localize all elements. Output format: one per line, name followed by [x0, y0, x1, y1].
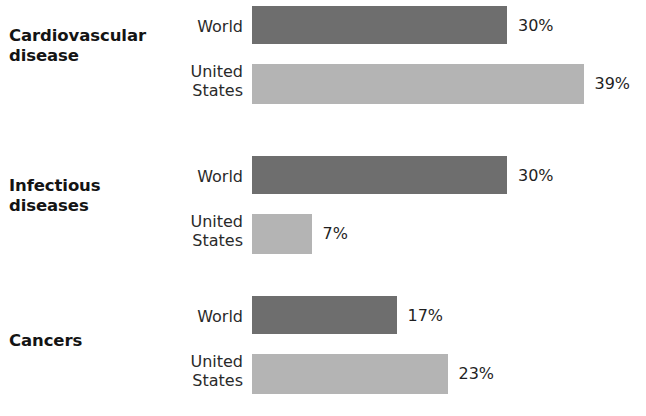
series-label-world: World	[93, 307, 243, 326]
bar-row: World 30%	[0, 154, 646, 206]
value-label-world-cancers: 17%	[408, 306, 444, 325]
chart-group-infectious-diseases: Infectious diseases World 30% United Sta…	[0, 150, 646, 290]
bar-row: United States 7%	[0, 208, 646, 260]
value-label-united-states-infectious-diseases: 7%	[323, 224, 348, 243]
value-label-world-cardiovascular-disease: 30%	[518, 16, 554, 35]
series-label-world: World	[93, 167, 243, 186]
bar-world-cancers	[252, 296, 397, 334]
chart-group-cancers: Cancers World 17% United States 23%	[0, 290, 646, 416]
bar-world-infectious-diseases	[252, 156, 507, 194]
chart-group-cardiovascular-disease: Cardiovascular disease World 30% United …	[0, 0, 646, 150]
bar-row: United States 39%	[0, 58, 646, 110]
value-label-world-infectious-diseases: 30%	[518, 166, 554, 185]
bar-row: United States 23%	[0, 348, 646, 400]
bar-united-states-infectious-diseases	[252, 214, 312, 254]
value-label-united-states-cancers: 23%	[459, 364, 495, 383]
grouped-bar-chart: Cardiovascular disease World 30% United …	[0, 0, 646, 416]
series-label-united-states: United States	[93, 212, 243, 250]
series-label-united-states: United States	[93, 352, 243, 390]
bar-row: World 30%	[0, 4, 646, 56]
value-label-united-states-cardiovascular-disease: 39%	[595, 74, 631, 93]
series-label-united-states: United States	[93, 62, 243, 100]
bar-row: World 17%	[0, 294, 646, 346]
series-label-world: World	[93, 17, 243, 36]
bar-united-states-cardiovascular-disease	[252, 64, 584, 104]
bar-united-states-cancers	[252, 354, 448, 394]
bar-world-cardiovascular-disease	[252, 6, 507, 44]
